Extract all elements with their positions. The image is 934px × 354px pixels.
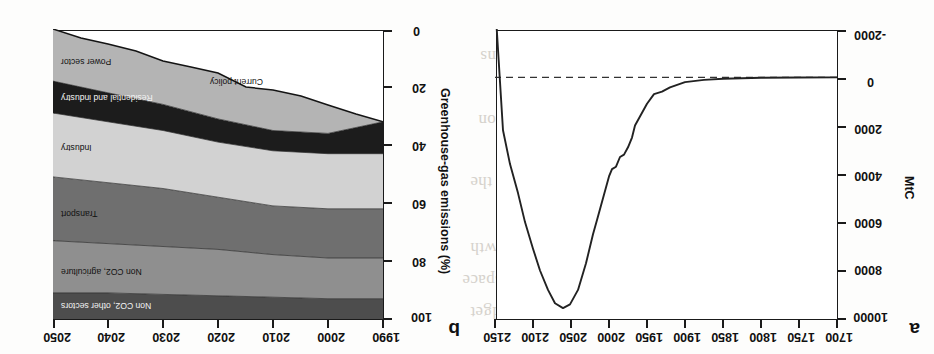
panel-a-y-tick: 0 <box>867 75 874 89</box>
panel-b-y-tick: 60 <box>412 197 426 211</box>
panel-a-x-tick: 1950 <box>635 330 663 344</box>
panel-a-y-tick-mark <box>837 222 846 224</box>
panel-a-y-tick-mark <box>837 78 846 80</box>
panel-b-y-tick: 0 <box>413 24 420 38</box>
panel-a-x-tick: 1800 <box>749 330 777 344</box>
panel-a-y-tick-mark <box>837 30 846 32</box>
panel-a-emissions-curve <box>495 29 837 308</box>
panel-b-y-tick: 20 <box>412 81 426 95</box>
panel-b-x-tick-mark <box>382 319 384 328</box>
panel-a-x-tick: 2150 <box>483 330 511 344</box>
panel-b-x-tick-mark <box>107 319 109 328</box>
panel-a-x-tick-mark <box>760 319 762 328</box>
panel-a-y-tick: -2000 <box>854 28 886 42</box>
panel-b-x-tick: 1990 <box>372 330 400 344</box>
panel-a-x-tick: 2000 <box>597 330 625 344</box>
panel-a-y-tick: 6000 <box>854 216 882 230</box>
panel-a-x-tick: 2100 <box>521 330 549 344</box>
panel-b-y-tick-mark <box>383 86 392 88</box>
panel-b-y-tick-mark <box>383 260 392 262</box>
panel-b-plot-area: Non CO2, other sectors Non CO2, agricult… <box>54 30 384 320</box>
panel-b-y-tick: 40 <box>412 139 426 153</box>
figure-page: a curve, the emissions limits in a panel… <box>0 0 934 354</box>
panel-a: a MtC 10000 8000 6000 4000 2000 0 -2000 <box>471 8 926 346</box>
panel-a-y-tick-mark <box>837 174 846 176</box>
panel-a-x-tick-mark <box>722 319 724 328</box>
panel-a-x-tick-mark <box>494 319 496 328</box>
panel-b: b Greenhouse-gas emissions (%) 100 80 60… <box>8 8 466 346</box>
panel-a-y-tick: 4000 <box>854 169 882 183</box>
panel-b-x-tick: 2020 <box>207 330 235 344</box>
panel-a-x-tick: 1850 <box>711 330 739 344</box>
panel-a-x-tick-mark <box>684 319 686 328</box>
panel-b-series-label-non-co2-other: Non CO2, other sectors <box>61 301 151 311</box>
panel-a-svg <box>495 29 837 319</box>
panel-a-letter: a <box>909 318 920 340</box>
panel-b-x-tick: 2030 <box>152 330 180 344</box>
panel-a-x-tick-mark <box>608 319 610 328</box>
panel-a-y-tick: 10000 <box>853 310 888 324</box>
panel-a-y-tick: 8000 <box>854 263 882 277</box>
panel-a-plot-area <box>496 30 838 320</box>
panel-a-x-tick: 1900 <box>673 330 701 344</box>
panel-a-x-tick-mark <box>570 319 572 328</box>
panel-b-series-label-industry: Industry <box>61 143 92 153</box>
panel-b-series-label-residential-and-industry: Residential and industry <box>61 93 153 103</box>
panel-b-y-tick-mark <box>383 202 392 204</box>
panel-b-y-axis-title: Greenhouse-gas emissions (%) <box>438 88 452 274</box>
panel-a-x-tick-mark <box>798 319 800 328</box>
panel-a-y-axis-title: MtC <box>902 176 916 200</box>
panel-b-y-tick-mark <box>383 144 392 146</box>
panel-b-x-tick-mark <box>272 319 274 328</box>
panel-b-x-tick-mark <box>162 319 164 328</box>
panel-b-y-tick: 100 <box>411 310 432 324</box>
panel-b-x-tick-mark <box>53 319 55 328</box>
panel-a-y-tick-mark <box>837 318 846 320</box>
panel-b-x-tick-mark <box>217 319 219 328</box>
panel-a-y-tick-mark <box>837 270 846 272</box>
panel-a-y-tick: 2000 <box>854 122 882 136</box>
panel-a-x-tick: 2050 <box>559 330 587 344</box>
panel-a-x-tick: 1750 <box>787 330 815 344</box>
panel-b-x-tick: 2050 <box>43 330 71 344</box>
panel-a-x-tick-mark <box>646 319 648 328</box>
panel-b-letter: b <box>448 318 460 340</box>
panel-b-series-label-non-co2-agriculture: Non CO2, agriculture <box>61 267 142 277</box>
panel-b-series-label-transport: Transport <box>61 209 97 219</box>
panel-b-current-policy-label: Current policy <box>210 77 263 87</box>
panel-a-x-tick-mark <box>532 319 534 328</box>
panel-b-y-tick-mark <box>383 30 392 32</box>
panel-b-series-label-power-sector: Power sector <box>61 57 111 67</box>
panel-b-x-tick: 2040 <box>97 330 125 344</box>
panel-b-x-tick: 2000 <box>317 330 345 344</box>
panel-a-x-tick: 1700 <box>825 330 853 344</box>
panel-a-y-tick-mark <box>837 126 846 128</box>
panel-b-x-tick: 2010 <box>262 330 290 344</box>
panel-b-x-tick-mark <box>327 319 329 328</box>
panel-a-x-tick-mark <box>836 319 838 328</box>
panel-b-y-tick-mark <box>383 318 392 320</box>
panel-b-y-tick: 80 <box>412 255 426 269</box>
